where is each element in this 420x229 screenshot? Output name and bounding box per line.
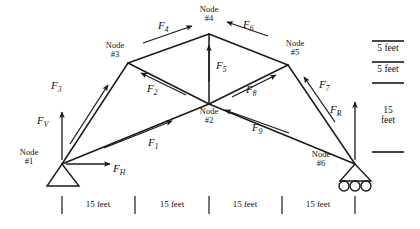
force-label-6-sub: 6 [250,24,254,33]
node-label-1: Node #1 [8,148,50,166]
pin-support-node-1 [47,164,79,186]
force-label-1: F1 [148,137,158,151]
node-label-4: Node #4 [188,5,230,23]
member-1-3 [62,63,128,164]
reaction-label-fr-symbol: F [330,103,337,115]
bottom-dimension-label-2: 15 feet [147,200,197,209]
bottom-dimension-label-1: 15 feet [73,200,123,209]
force-label-1-sub: 1 [155,142,159,151]
bottom-dimension-label-3: 15 feet [220,200,270,209]
force-label-7-symbol: F [319,78,326,90]
roller-support-node-6 [339,164,371,191]
force-label-9: F9 [252,122,262,136]
force-label-5: F5 [216,60,226,74]
node-label-5: Node #5 [274,39,316,57]
member-3-2 [128,63,209,104]
reaction-label-fh: FH [113,163,125,177]
force-label-4-sub: 4 [165,25,169,34]
node-label-2-line2: #2 [188,116,230,125]
force-label-3-symbol: F [51,79,58,91]
reaction-label-fh-symbol: F [113,162,120,174]
force-label-7-sub: 7 [326,84,330,93]
node-label-1-line2: #1 [8,157,50,166]
force-label-8-symbol: F [246,83,253,95]
reaction-label-fv: FV [37,115,48,129]
node-label-5-line2: #5 [274,48,316,57]
force-label-2: F2 [147,83,157,97]
force-label-7: F7 [319,79,329,93]
node-label-2: Node #2 [188,107,230,125]
reaction-label-fr: FR [330,104,341,118]
node-label-3-line2: #3 [94,50,136,59]
force-label-6-symbol: F [243,18,250,30]
force-label-4: F4 [158,20,168,34]
force-label-5-symbol: F [216,59,223,71]
node-label-6: Node #6 [300,150,342,168]
force-arrow-3 [70,85,108,144]
member-3-4 [128,34,209,63]
bottom-dimension-label-4: 15 feet [293,200,343,209]
right-scale-label-2: 5 feet [364,65,412,75]
force-label-5-sub: 5 [223,65,227,74]
force-label-4-symbol: F [158,19,165,31]
force-label-3: F3 [51,80,61,94]
reaction-label-fv-sub: V [44,120,49,129]
reaction-label-fr-sub: R [337,109,342,118]
force-arrow-1 [104,121,172,148]
force-label-9-sub: 9 [259,127,263,136]
force-label-2-symbol: F [147,82,154,94]
force-label-3-sub: 3 [58,85,62,94]
force-label-8: F8 [246,84,256,98]
node-label-6-line2: #6 [300,159,342,168]
node-label-4-line2: #4 [188,14,230,23]
truss-diagram: Node #1 Node #2 Node #3 Node #4 Node #5 … [0,0,420,229]
member-1-2 [62,104,209,164]
right-scale-label-1: 5 feet [364,44,412,54]
right-scale-label-3-line2: feet [364,116,412,126]
force-label-8-sub: 8 [253,89,257,98]
node-label-3: Node #3 [94,41,136,59]
force-label-6: F6 [243,19,253,33]
right-scale-rules [372,41,404,152]
reaction-label-fh-sub: H [120,168,125,177]
reaction-label-fv-symbol: F [37,114,44,126]
force-label-9-symbol: F [252,121,259,133]
right-scale-label-3: 15 feet [364,106,412,126]
force-label-2-sub: 2 [154,88,158,97]
force-label-1-symbol: F [148,136,155,148]
